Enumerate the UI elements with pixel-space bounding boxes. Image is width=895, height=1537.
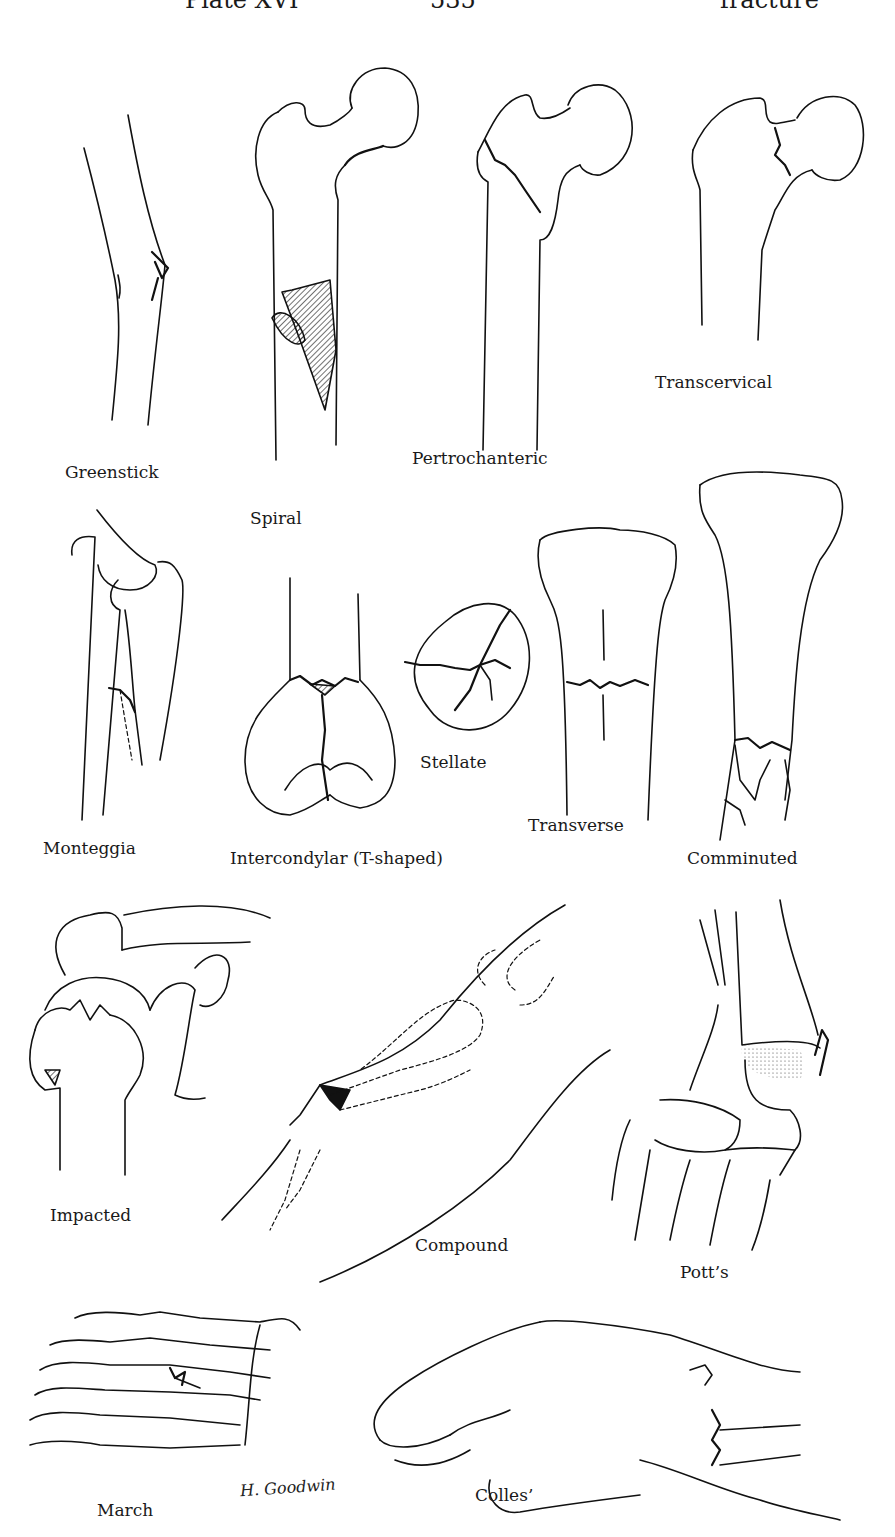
label-compound: Compound <box>415 1235 508 1255</box>
spiral-illustration <box>256 68 418 460</box>
stellate-illustration <box>405 604 529 730</box>
label-potts: Pott’s <box>680 1262 729 1282</box>
compound-illustration <box>222 905 610 1282</box>
label-comminuted: Comminuted <box>687 848 798 868</box>
label-colles: Colles’ <box>475 1485 533 1505</box>
label-pertrochanteric: Pertrochanteric <box>412 448 548 468</box>
march-illustration <box>30 1312 300 1448</box>
label-spiral: Spiral <box>250 508 302 528</box>
label-transverse: Transverse <box>528 815 624 835</box>
monteggia-illustration <box>72 510 183 820</box>
potts-illustration <box>612 900 828 1250</box>
label-march: March <box>97 1500 153 1520</box>
label-impacted: Impacted <box>50 1205 131 1225</box>
comminuted-illustration <box>700 472 843 840</box>
label-monteggia: Monteggia <box>43 838 136 858</box>
label-transcervical: Transcervical <box>655 372 772 392</box>
colles-illustration <box>374 1321 840 1520</box>
intercondylar-illustration <box>245 578 395 815</box>
pertrochanteric-illustration <box>477 85 632 450</box>
transcervical-illustration <box>692 96 863 340</box>
greenstick-illustration <box>84 115 168 425</box>
transverse-illustration <box>538 528 676 820</box>
impacted-illustration <box>30 906 270 1175</box>
label-stellate: Stellate <box>420 752 486 772</box>
label-intercondylar: Intercondylar (T-shaped) <box>230 848 443 868</box>
label-greenstick: Greenstick <box>65 462 159 482</box>
